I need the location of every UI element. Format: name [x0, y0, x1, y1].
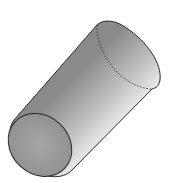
- cylinder-figure: [0, 0, 171, 183]
- cylinder-drawing: [0, 0, 171, 183]
